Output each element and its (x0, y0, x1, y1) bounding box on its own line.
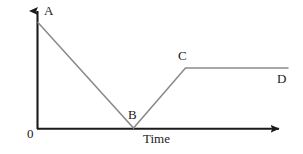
point-label-d: D (277, 72, 286, 85)
y-axis-title: Speed (0, 100, 14, 144)
point-label-a: A (44, 4, 53, 17)
point-label-b: B (128, 108, 137, 121)
x-axis-title: Time (143, 132, 170, 145)
speed-time-graph-figure: A B C D 0 Time Speed (0, 0, 303, 154)
speed-time-curve (38, 22, 289, 128)
origin-label: 0 (27, 127, 34, 140)
point-label-c: C (178, 49, 187, 62)
